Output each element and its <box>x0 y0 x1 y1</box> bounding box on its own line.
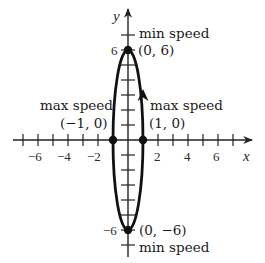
annotation-left-coords: (−1, 0) <box>60 115 108 131</box>
annotation-left-max-speed: max speed <box>40 97 113 113</box>
annotation-bottom-min-speed: min speed <box>139 239 210 255</box>
point-left <box>109 136 117 144</box>
y-axis-label: y <box>111 8 120 24</box>
x-tick-label: −6 <box>28 149 42 164</box>
x-tick-label: 2 <box>154 149 161 164</box>
x-tick-label: −2 <box>87 149 101 164</box>
x-tick-label: 4 <box>184 149 191 164</box>
x-tick-label: −4 <box>57 149 71 164</box>
point-top <box>124 46 132 54</box>
x-tick-label: 6 <box>213 149 220 164</box>
point-right <box>139 136 147 144</box>
annotation-top-min-speed: min speed <box>139 25 210 41</box>
ellipse-diagram: y x −6 −4 −2 2 4 6 6 −6 min speed (0, 6)… <box>0 0 265 263</box>
y-tick-label-6: 6 <box>111 43 118 58</box>
y-tick-label-neg6: −6 <box>103 223 117 238</box>
annotation-right-coords: (1, 0) <box>149 115 185 131</box>
direction-arrow-icon <box>138 89 149 101</box>
point-bottom <box>124 226 132 234</box>
annotation-right-max-speed: max speed <box>150 97 223 113</box>
annotation-bottom-coords: (0, −6) <box>139 222 187 238</box>
annotation-top-coords: (0, 6) <box>138 42 174 58</box>
x-axis-label: x <box>242 148 250 164</box>
x-tick-labels: −6 −4 −2 2 4 6 <box>28 149 220 164</box>
